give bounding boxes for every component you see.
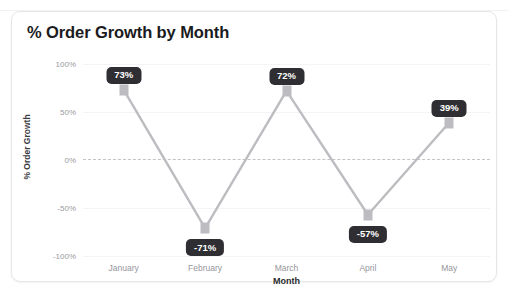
x-axis-title: Month	[83, 276, 490, 286]
data-point-marker[interactable]	[282, 85, 291, 96]
data-label: -71%	[186, 239, 224, 256]
gridline	[83, 256, 490, 257]
top-bleed-strip	[0, 0, 508, 11]
x-axis-tick-label: February	[188, 263, 222, 273]
line-chart: % Order Growth 100%50%0%-50%-100% Januar…	[12, 46, 498, 283]
data-label: 72%	[269, 68, 304, 85]
plot-area: 100%50%0%-50%-100% JanuaryFebruaryMarchA…	[83, 64, 490, 256]
data-label: -57%	[349, 226, 387, 243]
page-title: % Order Growth by Month	[27, 23, 229, 42]
data-point-marker[interactable]	[201, 223, 210, 234]
data-point-marker[interactable]	[119, 84, 128, 95]
data-label: 39%	[432, 100, 467, 117]
y-axis-tick-label: 100%	[56, 60, 76, 69]
y-axis-tick-label: 0%	[64, 156, 76, 165]
x-axis-tick-label: March	[275, 263, 299, 273]
x-axis-tick-label: January	[109, 263, 139, 273]
y-axis-title: % Order Growth	[22, 102, 32, 192]
x-axis-tick-label: May	[441, 263, 457, 273]
y-axis-tick-label: 50%	[60, 108, 76, 117]
data-point-marker[interactable]	[445, 117, 454, 128]
data-point-marker[interactable]	[363, 209, 372, 220]
data-label: 73%	[106, 67, 141, 84]
chart-card: % Order Growth by Month % Order Growth 1…	[11, 11, 497, 282]
y-axis-tick-label: -50%	[57, 204, 76, 213]
y-axis-tick-label: -100%	[53, 252, 76, 261]
x-axis-tick-label: April	[359, 263, 376, 273]
